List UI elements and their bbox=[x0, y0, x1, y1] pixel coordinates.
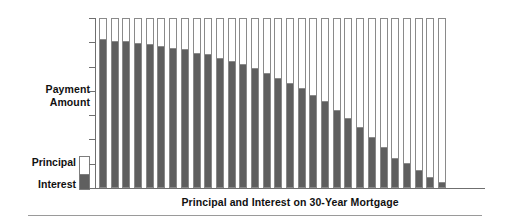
bar-column bbox=[122, 18, 130, 188]
bar-column bbox=[356, 18, 364, 188]
bar-column bbox=[157, 18, 165, 188]
y-axis-tick bbox=[89, 115, 95, 116]
x-axis-label: Principal and Interest on 30-Year Mortga… bbox=[95, 196, 485, 208]
bar-column bbox=[426, 18, 434, 188]
y-axis-tick bbox=[89, 164, 95, 165]
bar-segment-interest bbox=[357, 127, 363, 187]
plot-area bbox=[95, 18, 485, 189]
bottom-divider bbox=[28, 215, 482, 216]
bar-column bbox=[263, 18, 271, 188]
bar-segment-interest bbox=[205, 54, 211, 187]
bar-segment-interest bbox=[310, 95, 316, 187]
bar-column bbox=[193, 18, 201, 188]
bar-segment-interest bbox=[404, 163, 410, 187]
legend-swatch bbox=[79, 156, 90, 190]
legend-label-principal: Principal bbox=[32, 156, 76, 168]
bar-column bbox=[415, 18, 423, 188]
chart-legend: Principal Interest bbox=[14, 156, 90, 190]
bar-segment-interest bbox=[147, 44, 153, 187]
legend-swatch-principal bbox=[80, 157, 89, 174]
bar-segment-interest bbox=[369, 137, 375, 187]
y-axis-tick bbox=[89, 139, 95, 140]
bar-column bbox=[228, 18, 236, 188]
bar-column bbox=[146, 18, 154, 188]
bar-column bbox=[99, 18, 107, 188]
bar-column bbox=[181, 18, 189, 188]
bar-segment-interest bbox=[264, 73, 270, 187]
bar-column bbox=[204, 18, 212, 188]
bar-column bbox=[286, 18, 294, 188]
bar-column bbox=[333, 18, 341, 188]
y-axis-label-line1: Payment bbox=[28, 83, 90, 96]
bar-segment-interest bbox=[381, 147, 387, 187]
bar-segment-interest bbox=[229, 61, 235, 187]
bar-column bbox=[216, 18, 224, 188]
bar-segment-interest bbox=[345, 118, 351, 187]
bar-column bbox=[403, 18, 411, 188]
bar-segment-interest bbox=[439, 182, 445, 187]
bar-segment-interest bbox=[158, 46, 164, 187]
bar-column bbox=[309, 18, 317, 188]
bar-segment-interest bbox=[170, 48, 176, 187]
bar-column bbox=[274, 18, 282, 188]
bar-segment-interest bbox=[334, 110, 340, 187]
bar-segment-interest bbox=[217, 58, 223, 187]
y-axis-label: Payment Amount bbox=[28, 83, 90, 108]
bar-column bbox=[111, 18, 119, 188]
bar-segment-interest bbox=[135, 43, 141, 187]
mortgage-amortization-figure: Payment Amount Principal Interest Princi… bbox=[0, 0, 510, 222]
bar-segment-interest bbox=[182, 49, 188, 187]
y-axis-line bbox=[95, 18, 96, 189]
y-axis-tick bbox=[89, 42, 95, 43]
bar-segment-interest bbox=[287, 83, 293, 187]
bar-segment-interest bbox=[299, 88, 305, 187]
x-axis-line bbox=[95, 188, 485, 189]
legend-swatch-interest bbox=[80, 174, 89, 189]
bar-segment-interest bbox=[240, 64, 246, 187]
bar-segment-interest bbox=[416, 170, 422, 187]
bar-column bbox=[169, 18, 177, 188]
y-axis-label-line2: Amount bbox=[28, 96, 90, 109]
bar-column bbox=[344, 18, 352, 188]
bar-column bbox=[391, 18, 399, 188]
y-axis-tick bbox=[89, 18, 95, 19]
y-axis-tick bbox=[89, 67, 95, 68]
y-axis-tick bbox=[89, 188, 95, 189]
bar-segment-interest bbox=[322, 101, 328, 187]
bar-column bbox=[368, 18, 376, 188]
bar-segment-interest bbox=[392, 158, 398, 187]
bar-segment-interest bbox=[100, 39, 106, 187]
bar-column bbox=[239, 18, 247, 188]
bar-segment-interest bbox=[194, 53, 200, 187]
bar-segment-interest bbox=[252, 68, 258, 187]
bar-series-group bbox=[99, 18, 450, 188]
legend-labels: Principal Interest bbox=[32, 156, 76, 190]
bar-segment-interest bbox=[112, 41, 118, 187]
bar-column bbox=[380, 18, 388, 188]
bar-segment-interest bbox=[123, 41, 129, 187]
bar-column bbox=[134, 18, 142, 188]
bar-segment-interest bbox=[427, 177, 433, 187]
bar-column bbox=[251, 18, 259, 188]
bar-segment-interest bbox=[275, 78, 281, 187]
legend-label-interest: Interest bbox=[38, 178, 76, 190]
bar-column bbox=[438, 18, 446, 188]
bar-column bbox=[298, 18, 306, 188]
bar-column bbox=[321, 18, 329, 188]
y-axis-tick bbox=[89, 91, 95, 92]
